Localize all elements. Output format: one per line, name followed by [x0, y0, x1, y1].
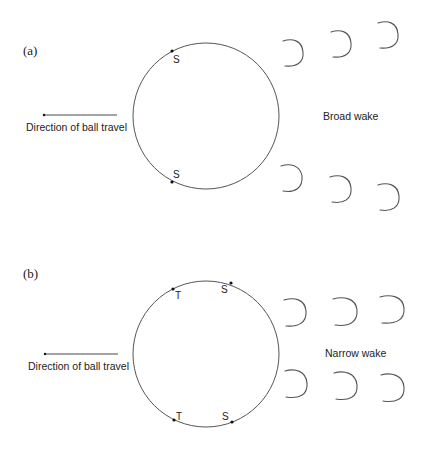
- panel-a-label: (a): [23, 43, 37, 58]
- wake-label: Broad wake: [323, 110, 379, 122]
- vortex-icon: [283, 40, 303, 66]
- ball-outline: [133, 281, 279, 427]
- vortex-icon: [285, 370, 307, 398]
- separation-point-lower: [170, 180, 173, 183]
- arrow-tip-icon: [44, 353, 46, 355]
- vortex-icon: [330, 176, 351, 203]
- direction-label: Direction of ball travel: [26, 121, 127, 133]
- vortex-icon: [378, 22, 398, 48]
- vortex-icon: [281, 165, 302, 192]
- vortex-icon: [378, 184, 399, 211]
- separation-point-upper: [170, 49, 173, 52]
- ball-outline: [133, 43, 279, 189]
- point-label-t-lower: T: [176, 411, 182, 422]
- vortex-icon: [284, 299, 306, 326]
- panel-b: (b) Direction of ball travel T S T S Nar…: [23, 266, 404, 427]
- point-label-s-lower: S: [173, 169, 180, 180]
- point-label-s-upper: S: [221, 284, 228, 295]
- wake-label: Narrow wake: [325, 347, 386, 359]
- arrow-tip-icon: [43, 114, 45, 116]
- vortex-icon: [334, 372, 357, 400]
- panel-a: (a) Direction of ball travel S S Broad w…: [23, 22, 399, 211]
- ball-wake-diagram: (a) Direction of ball travel S S Broad w…: [0, 0, 428, 456]
- point-label-t-upper: T: [175, 290, 181, 301]
- point-label-s-upper: S: [173, 54, 180, 65]
- direction-label: Direction of ball travel: [28, 360, 129, 372]
- panel-b-label: (b): [23, 266, 38, 281]
- vortex-icon: [380, 296, 404, 323]
- vortex-icon: [333, 298, 357, 326]
- vortex-icon: [331, 31, 351, 57]
- vortex-icon: [381, 374, 404, 402]
- separation-point-upper: [229, 281, 232, 284]
- point-label-s-lower: S: [222, 411, 229, 422]
- separation-point-lower: [230, 420, 233, 423]
